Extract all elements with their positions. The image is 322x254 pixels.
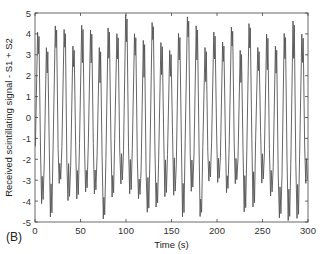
y-tick-label: -4 xyxy=(23,196,31,207)
panel-label: (B) xyxy=(6,230,22,244)
x-tick-label: 50 xyxy=(75,225,86,236)
x-tick-label: 250 xyxy=(255,225,271,236)
x-tick-label: 300 xyxy=(300,225,316,236)
y-tick-label: -1 xyxy=(23,133,31,144)
x-axis-ticks: 050100150200250300 xyxy=(32,13,316,236)
y-tick-label: 5 xyxy=(26,8,31,19)
x-tick-label: 150 xyxy=(164,225,180,236)
y-tick-label: -3 xyxy=(23,175,31,186)
x-axis-label: Time (s) xyxy=(154,239,188,250)
y-tick-label: 3 xyxy=(26,49,31,60)
x-tick-label: 100 xyxy=(118,225,134,236)
y-tick-label: 1 xyxy=(26,91,31,102)
y-tick-label: -5 xyxy=(23,217,31,228)
chart: 543210-1-2-3-4-5 050100150200250300 Time… xyxy=(0,0,322,254)
y-tick-label: -2 xyxy=(23,154,31,165)
y-tick-label: 2 xyxy=(26,70,31,81)
y-tick-label: 4 xyxy=(26,28,31,39)
y-axis-label: Received scintillating signal - S1 + S2 xyxy=(3,38,14,197)
signal-line xyxy=(35,15,307,221)
y-tick-label: 0 xyxy=(26,112,31,123)
x-tick-label: 0 xyxy=(32,225,37,236)
x-tick-label: 200 xyxy=(209,225,225,236)
